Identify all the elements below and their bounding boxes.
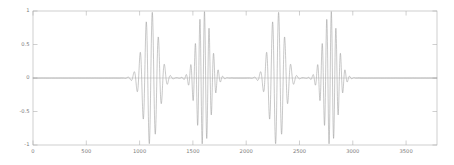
chart-canvas: -1-0.500.51 0500100015002000250030003500: [0, 0, 454, 165]
y-tick-label: -1: [24, 141, 29, 147]
x-axis-ticks: 0500100015002000250030003500: [31, 11, 412, 154]
x-tick-label: 500: [81, 148, 91, 154]
x-tick-label: 1500: [186, 148, 199, 154]
x-tick-label: 2000: [240, 148, 253, 154]
y-tick-label: 0.5: [21, 41, 29, 47]
y-tick-label: 0: [26, 74, 29, 80]
x-tick-label: 1000: [133, 148, 146, 154]
y-tick-label: 1: [26, 7, 29, 13]
x-tick-label: 3000: [346, 148, 359, 154]
y-axis-ticks: -1-0.500.51: [19, 7, 437, 147]
waveform-plot: -1-0.500.51 0500100015002000250030003500: [0, 0, 454, 165]
x-tick-label: 0: [31, 148, 34, 154]
y-tick-label: -0.5: [19, 108, 29, 114]
waveform-line: [33, 12, 437, 144]
x-tick-label: 2500: [293, 148, 306, 154]
x-tick-label: 3500: [399, 148, 412, 154]
